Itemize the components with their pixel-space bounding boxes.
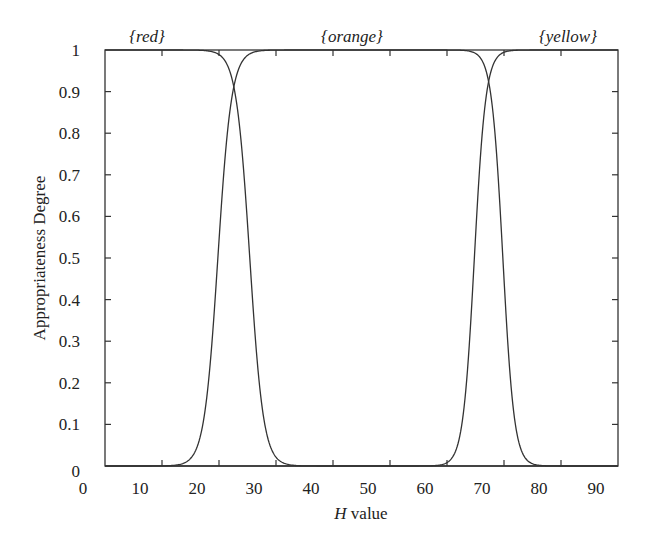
x-tick-label: 60 [417, 479, 434, 498]
curve-red [105, 50, 618, 466]
category-labels: {red}{orange}{yellow} [129, 27, 597, 46]
y-tick-label: 0.5 [59, 249, 80, 268]
y-axis-ticks: 00.10.20.30.40.50.60.70.80.91 [59, 41, 618, 481]
x-axis-title-rest: value [347, 504, 388, 523]
y-axis-title: Appropriateness Degree [30, 176, 49, 341]
category-label: {yellow} [539, 27, 597, 46]
y-tick-label: 0.2 [59, 374, 80, 393]
curve-yellow [105, 50, 618, 466]
y-tick-label: 0.3 [59, 332, 80, 351]
category-label: {orange} [321, 27, 383, 46]
y-tick-label: 0.8 [59, 124, 80, 143]
y-tick-label: 0.4 [59, 291, 81, 310]
x-tick-label: 0 [79, 479, 88, 498]
curve-orange [105, 50, 618, 466]
y-tick-label: 0.9 [59, 83, 80, 102]
y-tick-label: 1 [72, 41, 81, 60]
x-tick-label: 40 [303, 479, 320, 498]
x-axis-title: H value [333, 504, 387, 523]
chart: 0102030405060708090 00.10.20.30.40.50.60… [0, 0, 649, 539]
x-tick-label: 30 [246, 479, 263, 498]
y-tick-label: 0.1 [59, 415, 80, 434]
x-tick-label: 90 [588, 479, 605, 498]
x-tick-label: 50 [360, 479, 377, 498]
plot-frame [105, 50, 618, 466]
x-tick-label: 70 [474, 479, 491, 498]
x-axis-ticks: 0102030405060708090 [79, 50, 605, 498]
x-tick-label: 10 [132, 479, 149, 498]
x-tick-label: 80 [531, 479, 548, 498]
category-label: {red} [129, 27, 165, 46]
y-tick-label: 0.7 [59, 166, 81, 185]
x-tick-label: 20 [189, 479, 206, 498]
membership-curves [105, 50, 618, 466]
y-tick-label: 0 [72, 462, 81, 481]
y-tick-label: 0.6 [59, 207, 80, 226]
